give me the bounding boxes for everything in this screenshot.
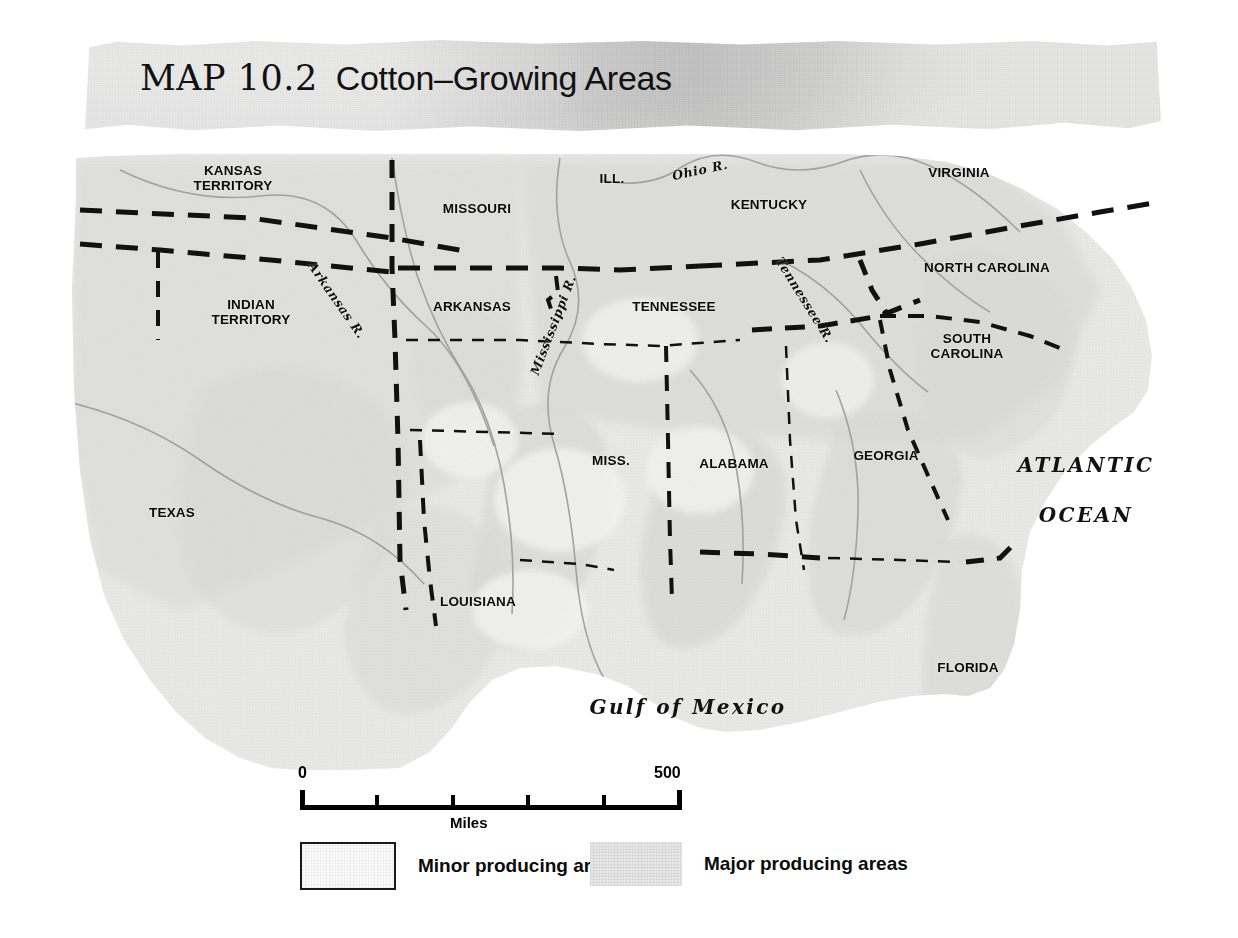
scale-tick-0 bbox=[300, 790, 305, 810]
place-label-arkansas: ARKANSAS bbox=[433, 299, 511, 314]
legend-entry-major: Major producing areas bbox=[590, 842, 908, 886]
scale-bar: 0 500 Miles bbox=[300, 788, 682, 810]
page-title: MAP 10.2 Cotton–Growing Areas bbox=[140, 58, 672, 98]
scale-tick-5 bbox=[677, 790, 682, 810]
place-label-kentucky: KENTUCKY bbox=[731, 197, 808, 212]
place-label-north-carolina: NORTH CAROLINA bbox=[924, 260, 1050, 275]
ocean-label-line1: Gulf of Mexico bbox=[589, 695, 786, 719]
scale-min-label: 0 bbox=[298, 764, 307, 782]
legend-label-major: Major producing areas bbox=[704, 853, 908, 875]
scale-tick-2 bbox=[451, 795, 455, 810]
place-label-florida: FLORIDA bbox=[937, 660, 998, 675]
place-label-miss: MISS. bbox=[592, 453, 630, 468]
ocean-label-atlantic-ocean: ATLANTICOCEAN bbox=[1018, 453, 1155, 527]
place-label-kansas-territory: KANSAS TERRITORY bbox=[193, 163, 272, 193]
ocean-label-gulf-of-mexico: Gulf of Mexico bbox=[589, 695, 786, 719]
scale-tick-3 bbox=[526, 795, 530, 810]
place-label-indian-territory: INDIAN TERRITORY bbox=[211, 297, 290, 327]
scale-line bbox=[300, 805, 682, 810]
map-number: MAP 10.2 bbox=[140, 58, 318, 98]
legend-entry-minor: Minor producing areas bbox=[300, 842, 623, 890]
scale-tick-4 bbox=[602, 795, 606, 810]
map-legend: Minor producing areasMajor producing are… bbox=[300, 842, 960, 890]
map-page: MAP 10.2 Cotton–Growing Areas bbox=[0, 0, 1238, 938]
place-label-texas: TEXAS bbox=[149, 505, 195, 520]
place-label-south-carolina: SOUTH CAROLINA bbox=[931, 331, 1004, 361]
place-label-ill: ILL. bbox=[600, 171, 625, 186]
place-label-louisiana: LOUISIANA bbox=[440, 594, 516, 609]
scale-max-label: 500 bbox=[654, 764, 681, 782]
scale-tick-1 bbox=[375, 795, 379, 810]
ocean-label-line1: ATLANTIC bbox=[1018, 453, 1155, 477]
place-label-georgia: GEORGIA bbox=[853, 448, 918, 463]
map-canvas: KANSAS TERRITORYINDIAN TERRITORYMISSOURI… bbox=[0, 140, 1238, 770]
place-label-tennessee: TENNESSEE bbox=[632, 299, 716, 314]
place-label-missouri: MISSOURI bbox=[443, 201, 511, 216]
legend-swatch-minor bbox=[300, 842, 396, 890]
map-subject: Cotton–Growing Areas bbox=[336, 59, 672, 98]
place-label-alabama: ALABAMA bbox=[699, 456, 769, 471]
ocean-label-line2: OCEAN bbox=[1018, 503, 1155, 527]
scale-unit-label: Miles bbox=[450, 814, 488, 831]
legend-swatch-major bbox=[590, 842, 682, 886]
place-label-virginia: VIRGINIA bbox=[928, 165, 990, 180]
